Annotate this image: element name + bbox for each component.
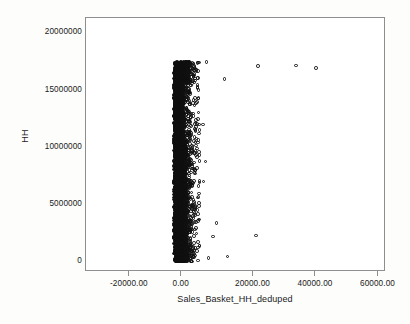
data-point (179, 235, 183, 239)
data-point (195, 232, 199, 236)
data-point (256, 64, 260, 68)
data-point (193, 122, 197, 126)
data-point (186, 170, 190, 174)
x-axis-title: Sales_Basket_HH_deduped (85, 294, 385, 304)
data-point (174, 241, 178, 245)
data-point (172, 229, 176, 233)
data-point (173, 68, 177, 72)
data-point (189, 120, 193, 124)
data-point (182, 102, 186, 106)
data-point (179, 239, 183, 243)
scatter-plot-screenshot: HH 05000000100000001500000020000000 -200… (0, 0, 410, 324)
data-point (172, 216, 176, 220)
data-point (196, 259, 200, 263)
data-point (314, 66, 318, 70)
data-point (205, 60, 209, 64)
data-point (188, 174, 192, 178)
data-point (184, 215, 188, 219)
data-point (185, 73, 189, 77)
data-point (188, 142, 192, 146)
data-point (192, 139, 196, 143)
data-point (187, 258, 191, 262)
data-point (254, 234, 258, 238)
data-point (195, 249, 199, 253)
data-point (190, 191, 194, 195)
data-point (178, 207, 182, 211)
x-axis-tick-mark (128, 271, 129, 276)
data-point (197, 192, 201, 196)
data-point (195, 147, 199, 151)
data-point (197, 111, 201, 115)
data-point (197, 184, 201, 188)
y-axis-tick-label: 0 (77, 256, 85, 265)
y-axis-tick-label: 10000000 (45, 142, 85, 151)
data-point (173, 124, 177, 128)
x-axis-tick-mark (180, 271, 181, 276)
plot-data-area (86, 18, 384, 270)
data-point (183, 201, 187, 205)
data-point (197, 201, 201, 205)
data-point (211, 235, 215, 239)
y-axis-tick-label: 5000000 (49, 199, 85, 208)
data-point (195, 155, 199, 159)
data-point (175, 248, 179, 252)
data-point (192, 161, 196, 165)
data-point (174, 177, 178, 181)
data-point (178, 187, 182, 191)
x-axis-tick-label: -20000.00 (110, 279, 148, 288)
data-point (194, 226, 198, 230)
x-axis-tick: -20000.00 (110, 271, 148, 288)
data-point (195, 100, 199, 104)
data-point (204, 160, 208, 164)
y-axis-tick-label: 20000000 (45, 27, 85, 36)
data-point (192, 167, 196, 171)
data-point (193, 127, 197, 131)
data-point (196, 76, 200, 80)
x-axis-tick-mark (252, 271, 253, 276)
data-point (174, 164, 178, 168)
data-point (196, 212, 200, 216)
data-point (183, 154, 187, 158)
data-point (190, 260, 194, 264)
data-point (226, 255, 230, 259)
data-point (198, 159, 202, 163)
data-point (196, 61, 200, 65)
data-point (192, 241, 196, 245)
data-point (294, 64, 298, 68)
data-point (189, 131, 193, 135)
x-axis-tick-label: 0.00 (173, 279, 189, 288)
data-point (185, 232, 189, 236)
data-point (187, 180, 191, 184)
data-point (174, 111, 178, 115)
data-point (177, 102, 181, 106)
data-point (188, 240, 192, 244)
data-point (223, 77, 227, 81)
data-point (172, 83, 176, 87)
data-point (215, 221, 219, 225)
data-point (192, 179, 196, 183)
data-point (193, 151, 197, 155)
data-point (194, 246, 198, 250)
data-point (197, 88, 201, 92)
data-point (178, 250, 182, 254)
x-axis-tick-label: 40000.00 (298, 279, 333, 288)
data-point (207, 256, 211, 260)
data-point (177, 116, 181, 120)
data-point (176, 171, 180, 175)
x-axis-tick-label: 60000.00 (360, 279, 395, 288)
data-point (193, 254, 197, 258)
y-axis-title: HH (20, 116, 30, 156)
data-point (188, 185, 192, 189)
x-axis-tick: 0.00 (173, 271, 189, 288)
data-point (175, 221, 179, 225)
y-axis-tick-label: 15000000 (45, 85, 85, 94)
data-point (175, 236, 179, 240)
data-point (189, 84, 193, 88)
data-point (198, 244, 202, 248)
data-point (197, 132, 201, 136)
x-axis-tick-mark (377, 271, 378, 276)
data-point (174, 141, 178, 145)
x-axis-tick: 60000.00 (360, 271, 395, 288)
x-axis-tick: 20000.00 (235, 271, 270, 288)
x-axis-tick-label: 20000.00 (235, 279, 270, 288)
